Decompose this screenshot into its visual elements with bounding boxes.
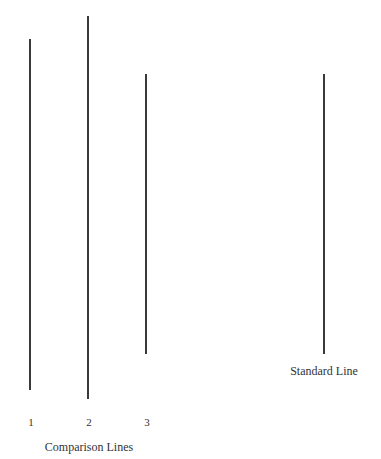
standard-line-caption: Standard Line — [290, 364, 358, 378]
comparison-line-3 — [145, 74, 147, 354]
comparison-line-1-label: 1 — [28, 416, 34, 429]
comparison-line-1 — [29, 39, 31, 390]
standard-line — [323, 74, 325, 354]
comparison-line-3-label: 3 — [144, 416, 150, 429]
comparison-line-2 — [87, 16, 89, 399]
line-comparison-diagram: 1 2 3 Comparison Lines Standard Line — [0, 0, 381, 459]
comparison-lines-caption: Comparison Lines — [45, 440, 133, 454]
comparison-line-2-label: 2 — [86, 416, 92, 429]
